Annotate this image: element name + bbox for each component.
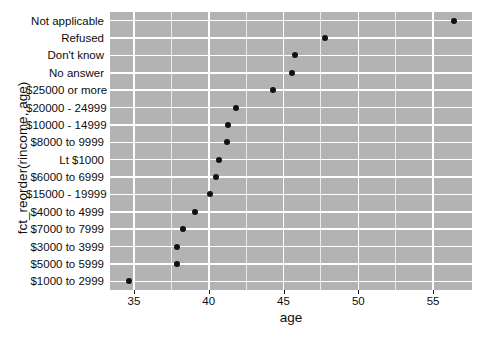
y-axis-tick-label: $15000 - 19999 bbox=[26, 188, 104, 200]
gridline-vertical-major bbox=[208, 12, 210, 290]
gridline-horizontal bbox=[110, 211, 472, 213]
gridline-horizontal bbox=[110, 176, 472, 178]
gridline-horizontal bbox=[110, 107, 472, 109]
gridline-horizontal bbox=[110, 281, 472, 283]
y-axis-tick-label: Don't know bbox=[26, 49, 104, 61]
data-point bbox=[174, 261, 180, 267]
y-axis-tick-label: Refused bbox=[26, 32, 104, 44]
gridline-vertical-major bbox=[283, 12, 285, 290]
data-point bbox=[292, 52, 298, 58]
y-axis-tick-label: $25000 or more bbox=[26, 84, 104, 96]
data-point bbox=[180, 226, 186, 232]
x-axis-tick-label: 40 bbox=[202, 295, 215, 307]
x-axis-tick-mark bbox=[134, 290, 135, 294]
x-axis-tick-label: 45 bbox=[277, 295, 290, 307]
data-point bbox=[207, 191, 213, 197]
gridline-horizontal bbox=[110, 20, 472, 22]
x-axis-tick-mark bbox=[284, 290, 285, 294]
gridline-vertical-minor bbox=[246, 12, 247, 290]
gridline-vertical-major bbox=[358, 12, 360, 290]
data-point bbox=[216, 157, 222, 163]
y-axis-tick-label: $5000 to 5999 bbox=[26, 258, 104, 270]
gridline-horizontal bbox=[110, 124, 472, 126]
data-point bbox=[451, 18, 457, 24]
y-axis-tick-label: Not applicable bbox=[26, 15, 104, 27]
data-point bbox=[233, 105, 239, 111]
y-axis-tick-label: $1000 to 2999 bbox=[26, 275, 104, 287]
gridline-horizontal bbox=[110, 37, 472, 39]
gridline-vertical-major bbox=[432, 12, 434, 290]
data-point bbox=[174, 244, 180, 250]
y-axis-tick-label: $7000 to 7999 bbox=[26, 223, 104, 235]
data-point bbox=[192, 209, 198, 215]
y-axis-tick-label: $4000 to 4999 bbox=[26, 206, 104, 218]
gridline-vertical-major bbox=[133, 12, 135, 290]
y-axis-tick-label: $20000 - 24999 bbox=[26, 102, 104, 114]
data-point bbox=[225, 122, 231, 128]
y-axis-tick-label: $10000 - 14999 bbox=[26, 119, 104, 131]
plot-panel bbox=[110, 12, 472, 290]
x-axis-tick-label: 35 bbox=[128, 295, 141, 307]
gridline-horizontal bbox=[110, 246, 472, 248]
gridline-horizontal bbox=[110, 89, 472, 91]
data-point bbox=[270, 87, 276, 93]
y-axis-tick-label: $3000 to 3999 bbox=[26, 241, 104, 253]
data-point bbox=[224, 139, 230, 145]
y-axis-tick-label: $6000 to 6999 bbox=[26, 171, 104, 183]
gridline-horizontal bbox=[110, 55, 472, 57]
y-axis-tick-label: $8000 to 9999 bbox=[26, 136, 104, 148]
data-point bbox=[213, 174, 219, 180]
gridline-horizontal bbox=[110, 142, 472, 144]
x-axis-tick-mark bbox=[209, 290, 210, 294]
x-axis-ticks: 3540455055 bbox=[110, 290, 472, 310]
x-axis-tick-mark bbox=[358, 290, 359, 294]
x-axis-tick-label: 55 bbox=[427, 295, 440, 307]
x-axis-title: age bbox=[110, 310, 472, 325]
gridline-vertical-minor bbox=[171, 12, 172, 290]
gridline-vertical-minor bbox=[395, 12, 396, 290]
x-axis-tick-label: 50 bbox=[352, 295, 365, 307]
y-axis-tick-label: No answer bbox=[26, 67, 104, 79]
scatter-plot: fct_reorder(rincome, age) Not applicable… bbox=[0, 0, 484, 340]
data-point bbox=[322, 35, 328, 41]
gridline-horizontal bbox=[110, 194, 472, 196]
gridline-horizontal bbox=[110, 159, 472, 161]
x-axis-tick-mark bbox=[433, 290, 434, 294]
gridline-horizontal bbox=[110, 228, 472, 230]
data-point bbox=[126, 278, 132, 284]
y-axis-tick-labels: Not applicableRefusedDon't knowNo answer… bbox=[26, 12, 104, 290]
gridline-horizontal bbox=[110, 263, 472, 265]
gridline-vertical-minor bbox=[320, 12, 321, 290]
data-point bbox=[289, 70, 295, 76]
y-axis-tick-label: Lt $1000 bbox=[26, 154, 104, 166]
